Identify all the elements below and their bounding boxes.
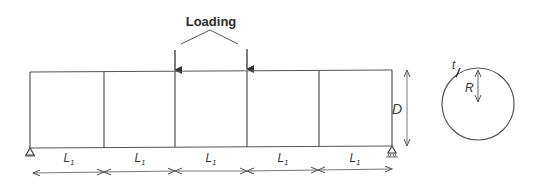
roller-support-right: [386, 146, 398, 157]
circular-cross-section: [442, 68, 514, 140]
radius-label: R: [465, 81, 474, 95]
span-label-4: L1: [268, 151, 298, 167]
pin-support-left: [25, 148, 35, 156]
loading-leader-lines: [181, 30, 238, 44]
depth-label: D: [392, 101, 402, 117]
span-dimension-line: [33, 169, 392, 173]
span-label-1: L1: [54, 151, 84, 167]
span-label-2: L1: [125, 151, 155, 167]
loading-label: Loading: [176, 14, 246, 29]
span-label-3: L1: [196, 151, 226, 167]
beam-outline: [30, 70, 392, 148]
panel-dividers: [104, 70, 319, 148]
thickness-label: t: [452, 58, 455, 72]
span-label-5: L1: [340, 151, 370, 167]
